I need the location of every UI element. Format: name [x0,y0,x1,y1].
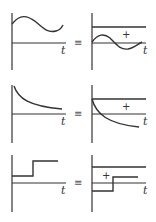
decay-row: t≡+t [12,85,148,143]
signal-curve-step [12,161,58,176]
right-t-label: t [143,184,148,197]
right-t-label: t [143,44,148,57]
sinusoid-row: t≡+t [12,13,148,70]
left-t-label: t [61,115,66,128]
right-t-label: t [143,115,148,128]
decay-row-original-signal: t [12,85,66,143]
signal-decomposition-diagram: t≡+tt≡+tt≡+t [0,0,156,222]
equivalence-symbol: ≡ [74,108,82,119]
equivalence-symbol: ≡ [74,177,82,188]
step-row-original-signal: t [12,155,66,212]
ac-component-curve [92,99,139,127]
left-t-label: t [61,184,66,197]
signal-curve-decay [14,86,62,109]
step-row: t≡+t [12,155,148,212]
left-t-label: t [61,44,66,57]
sinusoid-row-original-signal: t [12,13,66,70]
step-row-decomposed-signal: +t [92,155,148,212]
sinusoid-row-decomposed-signal: +t [92,13,148,70]
decay-row-decomposed-signal: +t [92,85,148,143]
ac-component-curve [92,177,138,191]
plus-symbol: + [122,101,130,112]
equivalence-symbol: ≡ [74,37,82,48]
ac-component-curve [92,35,142,49]
plus-symbol: + [102,170,110,181]
plus-symbol: + [122,29,130,40]
signal-curve-sine [12,17,63,32]
